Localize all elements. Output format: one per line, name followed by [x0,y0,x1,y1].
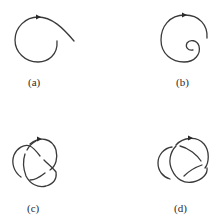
panel-label-b: (b) [176,76,189,89]
panel-label-c: (c) [27,202,40,215]
panel-label-a: (a) [28,76,41,89]
knot-strand-d3 [170,146,207,182]
direction-arrow-icon [37,137,42,142]
knot-strand-c4 [24,154,57,187]
panel-label-d: (d) [174,202,187,215]
direction-arrow-icon [188,136,193,141]
panel-d: (d) [158,136,208,216]
direction-arrow-icon [36,15,41,20]
panel-a: (a) [15,15,74,90]
direction-arrow-icon [182,13,187,18]
knot-strand-c1 [30,139,57,170]
knot-strand-d5 [184,165,202,176]
curve-a [15,17,74,62]
knot-strand-d1 [176,138,208,168]
knot-figure: (a) (b) (c) (d) [0,0,222,224]
panel-c: (c) [13,137,57,216]
knot-strand-d2 [180,146,201,161]
curve-b [161,15,207,62]
knot-strand-c2 [30,173,45,180]
panel-b: (b) [161,13,207,90]
